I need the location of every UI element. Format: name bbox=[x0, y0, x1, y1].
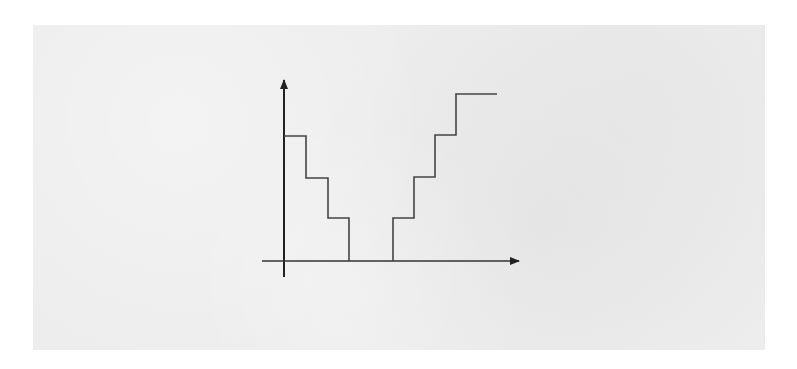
descending-staircase-line bbox=[284, 136, 349, 261]
ascending-staircase-line bbox=[393, 94, 497, 261]
step-function-diagram bbox=[0, 0, 797, 369]
